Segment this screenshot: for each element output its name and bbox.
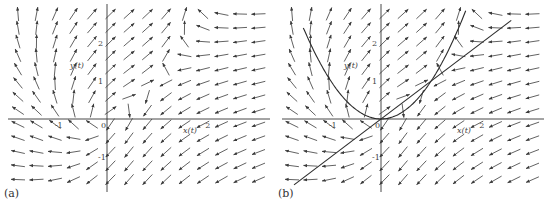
field-arrow [290, 35, 294, 48]
field-arrow [252, 95, 265, 99]
field-arrow [161, 161, 171, 170]
field-arrow [142, 23, 152, 32]
field-arrow [30, 179, 44, 180]
field-arrow [308, 77, 314, 90]
field-arrow [399, 161, 408, 172]
field-arrow [322, 165, 336, 166]
field-arrow [327, 35, 331, 48]
field-arrow [360, 148, 372, 155]
field-arrow [87, 23, 96, 34]
field-arrow [215, 13, 229, 16]
field-arrow [526, 109, 539, 113]
field-arrow [507, 54, 521, 57]
field-arrow [341, 177, 354, 183]
y-tick-label: -1 [98, 153, 106, 162]
field-arrow [87, 175, 98, 184]
field-arrow [322, 178, 336, 181]
field-arrow [507, 41, 521, 43]
field-arrow [399, 133, 407, 144]
field-arrow [328, 49, 331, 63]
direction-arrows [11, 7, 266, 185]
field-arrow [304, 165, 318, 166]
field-arrow [526, 68, 540, 71]
field-arrow [161, 120, 172, 129]
field-arrow [70, 8, 78, 20]
x-tick-label: 2 [479, 121, 484, 130]
field-arrow [342, 120, 352, 129]
field-arrow [234, 136, 247, 141]
field-arrow [252, 14, 266, 15]
field-arrow [325, 105, 333, 117]
direction-field-plot-a: -10221-1y(t)x(t) [0, 0, 275, 207]
field-arrow [526, 41, 540, 43]
field-arrow [162, 22, 171, 33]
tick-labels: -10221-1y(t)x(t) [55, 39, 210, 162]
field-arrow [397, 79, 409, 87]
field-arrow [252, 68, 266, 71]
field-arrow [310, 48, 311, 62]
field-arrow [507, 81, 520, 85]
field-arrow [233, 41, 247, 43]
field-arrow [197, 135, 209, 142]
field-arrow [178, 68, 192, 71]
field-arrow [252, 122, 265, 127]
field-arrow [53, 90, 57, 103]
field-arrow [30, 165, 44, 166]
field-arrow [179, 134, 190, 142]
field-arrow [142, 65, 153, 74]
y-tick-label: -1 [372, 153, 380, 162]
field-arrow [178, 54, 192, 57]
y-tick-label: 1 [372, 77, 377, 86]
field-arrow [234, 149, 247, 155]
field-arrow [125, 133, 133, 144]
field-arrow [123, 79, 135, 87]
field-arrow [435, 106, 446, 115]
field-arrow [471, 108, 484, 114]
field-arrow [285, 151, 299, 154]
field-arrow [252, 109, 265, 113]
field-arrow [417, 105, 425, 116]
field-arrow [416, 37, 426, 46]
field-arrow [87, 9, 96, 20]
field-arrow [196, 68, 210, 71]
field-arrow [34, 77, 40, 90]
field-arrow [125, 147, 134, 158]
field-arrow [526, 95, 539, 99]
field-arrow [197, 148, 209, 155]
field-arrow [196, 81, 209, 86]
field-arrow [328, 62, 329, 76]
field-arrow [471, 176, 483, 184]
field-arrow [143, 133, 152, 143]
field-arrow [54, 62, 55, 76]
field-arrow [305, 106, 315, 116]
field-arrow [215, 28, 229, 29]
field-arrow [454, 36, 462, 47]
field-arrow [416, 9, 426, 19]
field-arrow [327, 90, 331, 103]
field-arrow [67, 137, 81, 139]
field-arrow [508, 177, 521, 183]
field-arrow [398, 23, 408, 32]
field-arrow [489, 176, 501, 183]
field-arrow [417, 119, 426, 130]
field-arrow [234, 177, 247, 183]
field-arrow [234, 163, 247, 169]
field-arrow [526, 136, 539, 141]
field-arrow [416, 51, 427, 60]
field-arrow [143, 119, 152, 130]
field-arrow [344, 8, 352, 20]
panel-a: -10221-1y(t)x(t) (a) [0, 0, 275, 207]
field-arrow [252, 136, 265, 141]
field-arrow [35, 62, 38, 76]
field-arrow [305, 121, 317, 128]
field-arrow [252, 177, 265, 183]
field-arrow [507, 27, 521, 28]
field-arrow [287, 92, 297, 101]
field-arrow [215, 149, 227, 155]
field-arrow [346, 104, 349, 118]
field-arrow [416, 65, 427, 74]
field-arrow [233, 108, 246, 113]
axes [8, 4, 270, 192]
x-tick-label: -1 [55, 121, 63, 130]
field-arrow [128, 104, 130, 118]
